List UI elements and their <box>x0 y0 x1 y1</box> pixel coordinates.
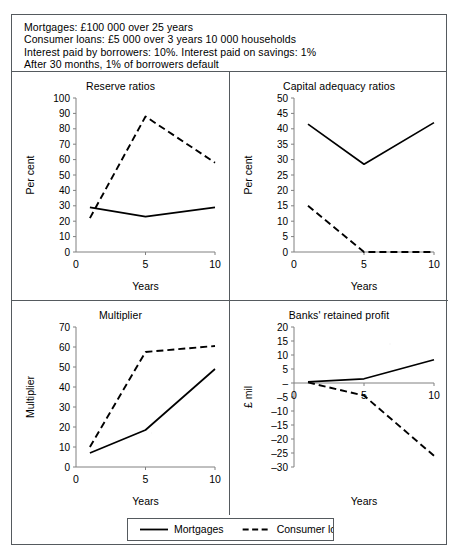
legend-label-consumer-loans: Consumer loans <box>277 523 333 535</box>
svg-text:45: 45 <box>277 108 289 119</box>
svg-text:100: 100 <box>53 93 70 104</box>
svg-text:–: – <box>282 378 288 389</box>
svg-text:40: 40 <box>59 382 71 393</box>
svg-text:5: 5 <box>282 364 288 375</box>
svg-text:60: 60 <box>59 154 71 165</box>
svg-text:0: 0 <box>64 247 70 258</box>
chart-reserve-ratios: 01020304050607080901000510YearsPer cent <box>12 72 229 300</box>
svg-text:–25: –25 <box>271 448 288 459</box>
svg-text:10: 10 <box>277 350 289 361</box>
panel-multiplier: Multiplier 0102030405060700510YearsMulti… <box>12 301 230 515</box>
svg-text:50: 50 <box>59 362 71 373</box>
svg-text:80: 80 <box>59 123 71 134</box>
assumption-line-3: Interest paid by borrowers: 10%. Interes… <box>24 46 446 58</box>
svg-text:90: 90 <box>59 108 71 119</box>
svg-text:Years: Years <box>132 280 158 292</box>
svg-text:0: 0 <box>73 258 79 270</box>
svg-text:–30: –30 <box>271 462 288 473</box>
legend-area: MortgagesConsumer loans <box>12 515 446 546</box>
svg-text:10: 10 <box>428 389 440 401</box>
figure-frame: Mortgages: £100 000 over 25 years Consum… <box>11 14 447 545</box>
svg-text:40: 40 <box>59 185 71 196</box>
svg-text:60: 60 <box>59 342 71 353</box>
svg-text:20: 20 <box>277 185 289 196</box>
svg-text:30: 30 <box>277 154 289 165</box>
svg-text:20: 20 <box>59 422 71 433</box>
svg-text:Years: Years <box>351 495 377 507</box>
svg-text:0: 0 <box>282 247 288 258</box>
svg-text:0: 0 <box>64 462 70 473</box>
svg-text:Years: Years <box>351 280 377 292</box>
svg-text:40: 40 <box>277 123 289 134</box>
svg-text:10: 10 <box>209 258 221 270</box>
svg-text:–5: –5 <box>277 392 289 403</box>
svg-text:5: 5 <box>143 473 149 485</box>
svg-text:70: 70 <box>59 322 71 333</box>
legend-box: MortgagesConsumer loans <box>127 518 334 541</box>
panel-reserve-ratios: Reserve ratios 0102030405060708090100051… <box>12 72 230 301</box>
chart-banks-retained-profit: –30–25–20–15–10–5–51015200510Years£ mil <box>230 301 448 515</box>
svg-text:20: 20 <box>277 322 289 333</box>
svg-text:Per cent: Per cent <box>242 155 254 194</box>
svg-text:35: 35 <box>277 139 289 150</box>
svg-text:10: 10 <box>209 473 221 485</box>
svg-text:–10: –10 <box>271 406 288 417</box>
assumption-line-4: After 30 months, 1% of borrowers default <box>24 58 446 70</box>
svg-text:30: 30 <box>59 200 71 211</box>
svg-text:50: 50 <box>59 170 71 181</box>
svg-text:10: 10 <box>428 258 440 270</box>
svg-text:15: 15 <box>277 336 289 347</box>
assumption-line-1: Mortgages: £100 000 over 25 years <box>24 21 446 33</box>
svg-text:70: 70 <box>59 139 71 150</box>
svg-text:Per cent: Per cent <box>24 155 36 194</box>
chart-capital-adequacy-ratios: 051015202530354045500510YearsPer cent <box>230 72 448 300</box>
svg-text:Years: Years <box>132 495 158 507</box>
svg-text:50: 50 <box>277 93 289 104</box>
svg-text:5: 5 <box>282 231 288 242</box>
svg-text:10: 10 <box>59 442 71 453</box>
legend-label-mortgages: Mortgages <box>174 523 224 535</box>
svg-text:5: 5 <box>143 258 149 270</box>
assumption-line-2: Consumer loans: £5 000 over 3 years 10 0… <box>24 33 446 45</box>
svg-text:20: 20 <box>59 216 71 227</box>
svg-text:0: 0 <box>73 473 79 485</box>
svg-text:5: 5 <box>361 258 367 270</box>
svg-text:0: 0 <box>291 389 297 401</box>
panel-banks-retained-profit: Banks' retained profit –30–25–20–15–10–5… <box>230 301 448 515</box>
svg-text:10: 10 <box>59 231 71 242</box>
assumptions-box: Mortgages: £100 000 over 25 years Consum… <box>12 15 446 72</box>
svg-text:£ mil: £ mil <box>242 386 254 408</box>
chart-grid: Reserve ratios 0102030405060708090100051… <box>12 72 446 515</box>
panel-capital-adequacy-ratios: Capital adequacy ratios 0510152025303540… <box>230 72 448 301</box>
svg-text:0: 0 <box>291 258 297 270</box>
svg-text:25: 25 <box>277 170 289 181</box>
svg-text:10: 10 <box>277 216 289 227</box>
svg-text:–15: –15 <box>271 420 288 431</box>
svg-text:15: 15 <box>277 200 289 211</box>
svg-text:30: 30 <box>59 402 71 413</box>
svg-text:Multiplier: Multiplier <box>24 375 36 418</box>
svg-text:–20: –20 <box>271 434 288 445</box>
chart-multiplier: 0102030405060700510YearsMultiplier <box>12 301 229 515</box>
